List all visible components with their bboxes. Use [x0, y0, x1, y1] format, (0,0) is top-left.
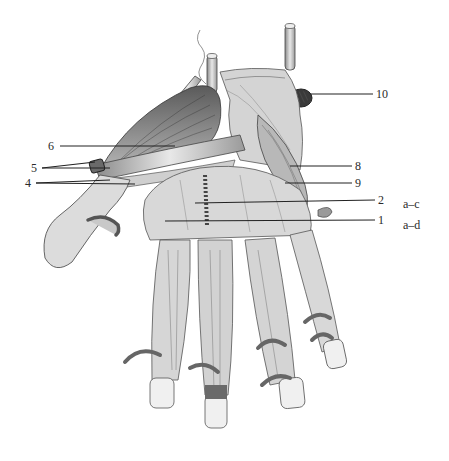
fingers: [125, 230, 348, 428]
label-2: 2: [378, 194, 384, 206]
hand-illustration: [0, 0, 449, 461]
range-label-a-d: a–d: [403, 219, 420, 231]
label-5: 5: [31, 162, 37, 174]
anatomy-figure: 10 6 5 8 4 9 2 1 a–c a–d: [0, 0, 449, 461]
label-1: 1: [378, 214, 384, 226]
palm: [143, 166, 332, 240]
label-4: 4: [25, 177, 31, 189]
range-label-a-c: a–c: [403, 198, 420, 210]
leader-5a: [42, 162, 95, 168]
thumb: [44, 175, 130, 268]
label-9: 9: [355, 177, 361, 189]
label-8: 8: [355, 160, 361, 172]
label-6: 6: [48, 140, 54, 152]
label-10: 10: [376, 88, 388, 100]
